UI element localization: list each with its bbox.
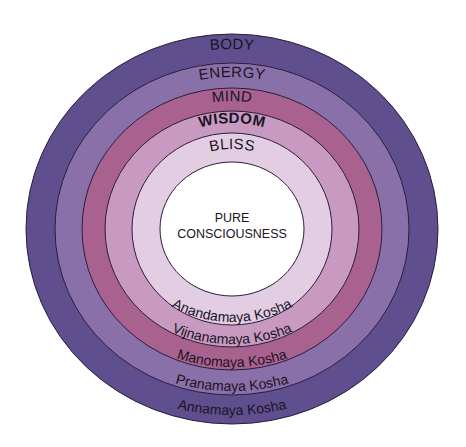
layer-name-mind: MIND bbox=[211, 87, 253, 105]
koshas-diagram: BODYAnnamaya KoshaENERGYPranamaya KoshaM… bbox=[0, 0, 466, 447]
layer-name-bliss: BLISS bbox=[208, 135, 257, 155]
center-label-line: PURE bbox=[215, 211, 250, 225]
center-label-line: CONSCIOUSNESS bbox=[177, 227, 287, 241]
layer-name-body: BODY bbox=[209, 35, 255, 53]
layer-name-energy: ENERGY bbox=[197, 63, 266, 83]
